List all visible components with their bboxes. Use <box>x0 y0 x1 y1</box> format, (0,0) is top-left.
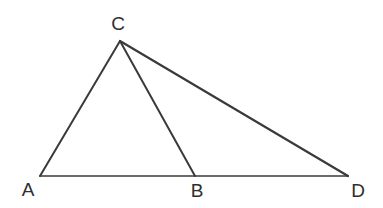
vertex-label-a: A <box>22 180 35 199</box>
segment-c-b <box>120 41 195 176</box>
vertex-label-d: D <box>351 181 365 200</box>
geometry-canvas <box>0 0 383 208</box>
geometry-figure: A B C D <box>0 0 383 208</box>
segment-a-c <box>40 41 120 176</box>
vertex-label-b: B <box>191 181 204 200</box>
segment-c-d <box>120 41 348 176</box>
vertex-label-c: C <box>111 14 125 33</box>
